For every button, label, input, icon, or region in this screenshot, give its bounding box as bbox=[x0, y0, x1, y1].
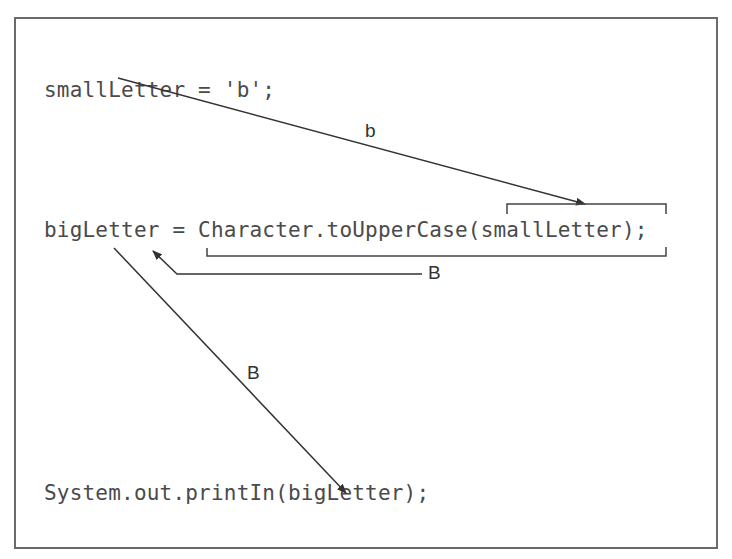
argument-bracket bbox=[507, 204, 666, 214]
arrow-big-letter-to-println bbox=[114, 248, 346, 493]
arrows-layer bbox=[0, 0, 732, 559]
method-call-bracket bbox=[207, 247, 666, 256]
arrow-method-result-to-big-letter bbox=[153, 251, 422, 274]
arrow-small-letter-to-argument bbox=[118, 78, 585, 204]
